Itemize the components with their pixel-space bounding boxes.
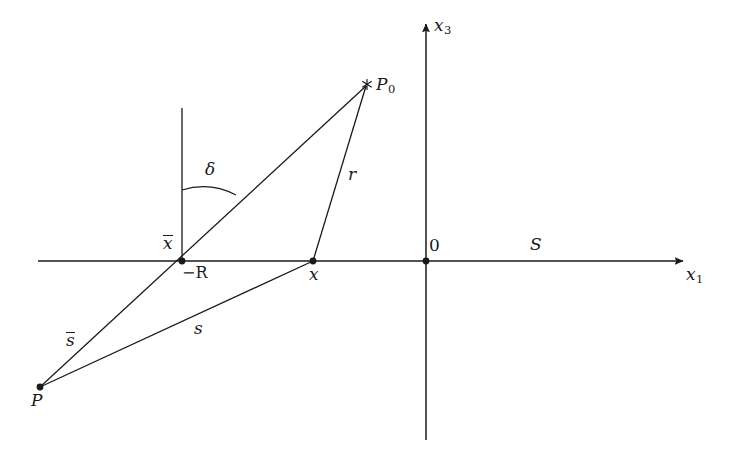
segment-label-r: r <box>348 166 356 183</box>
surface-label-S: S <box>530 236 542 253</box>
point-label-x-bar: x <box>163 234 173 252</box>
point-label-P: P <box>31 392 42 409</box>
angle-label-delta: δ <box>205 161 215 178</box>
segment-label-s: s <box>194 320 203 337</box>
axis-mark-minus-R: −R <box>182 265 207 281</box>
origin-label: 0 <box>429 237 440 254</box>
x3-axis-label: x3 <box>434 17 451 37</box>
segment-s-bar <box>40 86 366 387</box>
point-label-P0: P0 <box>376 76 395 96</box>
segment-s <box>40 261 313 387</box>
angle-arc-delta <box>182 187 236 195</box>
segment-label-s-bar: s <box>66 331 75 349</box>
x1-axis-label: x1 <box>686 266 703 286</box>
point-marker-origin <box>423 258 430 265</box>
segment-r <box>313 86 366 261</box>
point-label-x: x <box>309 266 319 283</box>
geometry-figure: x1 x3 0 S P P0 x x −R δ r s s <box>0 0 731 458</box>
diagram-canvas <box>0 0 731 458</box>
